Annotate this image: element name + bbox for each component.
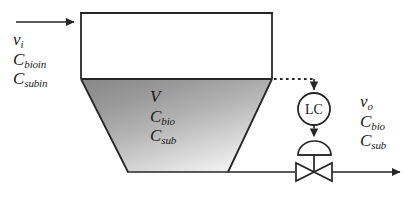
outlet-label-2: Csub xyxy=(360,132,386,152)
outlet-label-0: vo xyxy=(360,93,386,113)
tank-label-1: Cbio xyxy=(150,108,176,128)
valve-body[interactable] xyxy=(296,163,314,181)
outlet-label-1: Cbio xyxy=(360,113,386,133)
valve-actuator-dome xyxy=(298,141,331,155)
tank-contents-labels: V Cbio Csub xyxy=(150,88,176,147)
process-flow-diagram: LC vi Cbioin Csubin V Cbio Csub vo Cbio … xyxy=(0,0,417,204)
outlet-stream-labels: vo Cbio Csub xyxy=(360,93,386,152)
inlet-label-1: Cbioin xyxy=(13,51,47,71)
tank-label-0: V xyxy=(150,88,176,108)
tank-label-2: Csub xyxy=(150,127,176,147)
diagram-canvas: LC xyxy=(0,0,417,204)
inlet-label-0: vi xyxy=(13,31,47,51)
level-controller-tag: LC xyxy=(305,102,323,117)
inlet-stream-labels: vi Cbioin Csubin xyxy=(13,31,47,90)
liquid-body xyxy=(81,79,272,172)
inlet-label-2: Csubin xyxy=(13,70,47,90)
valve-body-right[interactable] xyxy=(314,163,332,181)
